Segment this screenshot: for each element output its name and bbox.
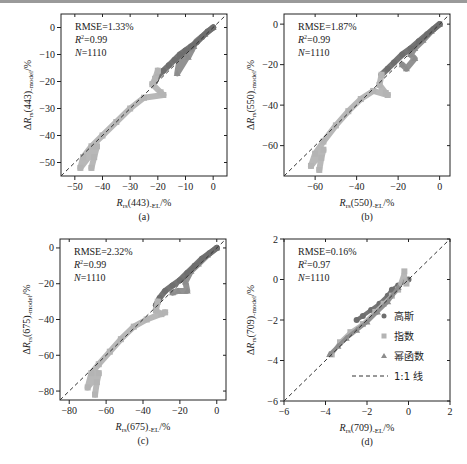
label-symbol: R (339, 197, 346, 208)
label-suffix: /% (245, 60, 256, 71)
label-suffix: /% (159, 421, 170, 432)
n-value: =1110 (305, 272, 330, 283)
x-tick-label: −30 (122, 181, 138, 192)
n-value: =1110 (81, 272, 106, 283)
label-symbol: R (245, 343, 256, 350)
label-arg: (675) (21, 315, 33, 337)
square-marker (88, 165, 94, 171)
y-tick-label: −30 (39, 103, 55, 114)
x-axis-label: Rrs(675)-EL/% (115, 421, 171, 434)
n-value: =1110 (305, 47, 330, 58)
x-tick-label: −4 (320, 406, 331, 417)
panel-caption: (b) (361, 211, 373, 223)
circle-marker (177, 52, 183, 58)
x-axis-label: Rrs(550)-EL/% (339, 197, 395, 210)
chart-panel-b: −60−40−200−60−40−200RMSE=1.87%R2=0.99N=1… (245, 14, 450, 223)
x-tick-label: −20 (172, 405, 188, 416)
r2-value: =0.97 (307, 259, 330, 270)
y-tick-label: −10 (39, 49, 55, 60)
circle-marker (424, 31, 430, 37)
square-marker (96, 370, 102, 376)
n-value: =1110 (82, 47, 107, 58)
circle-marker (170, 283, 176, 289)
y-axis-label: ΔRrs(675)-model/% (21, 284, 34, 354)
y-tick-label: −60 (262, 140, 278, 151)
x-axis-label: Rrs(709)-EL/% (339, 422, 395, 435)
circle-marker (194, 39, 200, 45)
square-marker (85, 384, 91, 390)
square-marker (77, 165, 83, 171)
legend-square-icon (382, 334, 387, 339)
panel-caption: (d) (361, 436, 373, 448)
y-axis-label: ΔRrs(709)-model/% (245, 285, 258, 355)
r2-symbol: R (297, 259, 304, 270)
r2-value: =0.99 (83, 259, 106, 270)
legend-label: 幂函数 (394, 350, 424, 362)
y-tick-label: −40 (39, 130, 55, 141)
r2-text: R2=0.99 (74, 34, 107, 45)
square-marker (318, 155, 324, 161)
y-tick-label: 0 (49, 242, 54, 253)
y-tick-label: −40 (38, 314, 54, 325)
circle-marker (160, 68, 166, 74)
circle-marker (171, 57, 177, 63)
circle-marker (408, 45, 414, 51)
circle-marker (162, 288, 168, 294)
label-arg: (443) (22, 91, 34, 113)
label-suffix: /% (383, 197, 394, 208)
square-marker (308, 163, 314, 169)
circle-marker (199, 34, 205, 40)
rmse-text: RMSE=1.33% (75, 21, 134, 32)
y-tick-label: −40 (262, 100, 278, 111)
y-tick-label: 0 (273, 19, 278, 30)
label-subscript-2: -model (250, 296, 258, 316)
square-marker (401, 268, 407, 274)
x-tick-label: −6 (279, 406, 290, 417)
legend-circle-icon (382, 314, 387, 319)
y-tick-label: −20 (39, 76, 55, 87)
label-symbol: R (22, 118, 33, 125)
x-tick-label: −40 (349, 181, 365, 192)
r2-value: =0.99 (307, 34, 330, 45)
y-tick-label: −60 (38, 350, 54, 361)
y-tick-label: −80 (38, 386, 54, 397)
label-symbol: R (116, 197, 123, 208)
x-tick-label: −2 (362, 406, 373, 417)
x-tick-label: −50 (67, 181, 83, 192)
circle-marker (430, 26, 436, 32)
chart-panel-a: −50−40−30−20−100−50−40−30−20−100RMSE=1.3… (22, 14, 227, 223)
y-tick-label: 0 (273, 274, 278, 285)
square-marker (92, 392, 98, 398)
circle-marker (354, 317, 360, 323)
circle-marker (416, 38, 422, 44)
y-tick-label: −20 (38, 278, 54, 289)
r2-symbol: R (74, 34, 81, 45)
square-marker (155, 68, 161, 74)
n-text: N=1110 (297, 47, 330, 58)
square-marker (153, 308, 159, 314)
square-marker (94, 143, 100, 149)
r2-text: R2=0.97 (297, 259, 330, 270)
r2-symbol: R (73, 259, 80, 270)
y-axis-label: ΔRrs(443)-model/% (22, 60, 35, 130)
y-tick-label: −4 (267, 355, 278, 366)
n-text: N=1110 (73, 272, 106, 283)
square-marker (91, 154, 97, 160)
circle-marker (360, 313, 366, 319)
square-marker (94, 379, 100, 385)
square-marker (379, 72, 385, 78)
y-tick-label: −6 (267, 396, 278, 407)
x-tick-label: −60 (98, 405, 114, 416)
square-marker (88, 370, 94, 376)
label-arg: (709) (245, 316, 257, 338)
label-symbol: R (115, 421, 122, 432)
legend-label: 高斯 (394, 310, 414, 322)
x-tick-label: 0 (406, 406, 411, 417)
label-subscript-2: -EL (372, 427, 383, 435)
x-tick-label: 0 (214, 405, 219, 416)
legend: 高斯指数幂函数1:1 线 (352, 310, 424, 382)
x-tick-label: −40 (135, 405, 151, 416)
x-axis-label: Rrs(443)-EL/% (116, 197, 172, 210)
label-arg: (550) (351, 197, 373, 209)
x-tick-label: −80 (61, 405, 77, 416)
